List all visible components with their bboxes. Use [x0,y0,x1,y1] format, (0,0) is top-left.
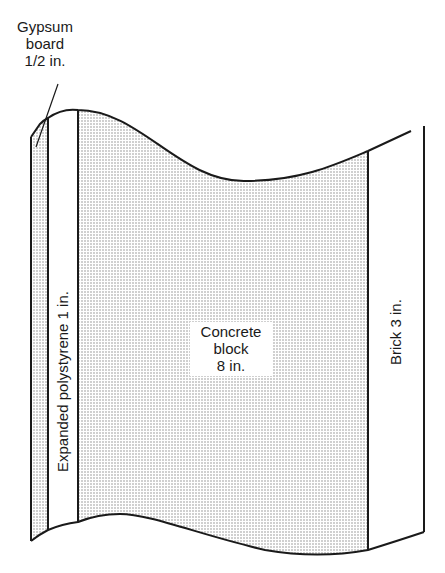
polystyrene-label: Expanded polystyrene 1 in. [54,291,71,472]
gypsum-board-label: Gypsum board 1/2 in. [8,18,82,69]
concrete-label-line3: 8 in. [190,357,272,374]
concrete-label-line1: Concrete [190,323,272,340]
gypsum-label-line1: Gypsum [8,18,82,35]
gypsum-label-line3: 1/2 in. [8,52,82,69]
concrete-block-label: Concrete block 8 in. [190,322,272,376]
gypsum-label-line2: board [8,35,82,52]
wall-section-diagram [0,0,445,573]
brick-label: Brick 3 in. [387,299,404,365]
gypsum-board-layer [31,118,48,541]
concrete-label-line2: block [190,340,272,357]
